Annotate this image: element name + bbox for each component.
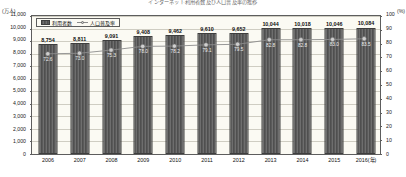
bar-slot: 10,044 xyxy=(255,16,287,154)
x-axis-tick-label: 2014 xyxy=(296,157,308,163)
x-axis-tick-label: 2015 xyxy=(328,157,340,163)
x-axis-tick-label: 2006 xyxy=(42,157,54,163)
x-axis-tick-label: 2007 xyxy=(74,157,86,163)
y-axis-right-tickmark xyxy=(380,71,382,72)
x-axis-tick-label: 2016(年) xyxy=(356,157,377,163)
y-axis-left-tick-label: 0 xyxy=(0,152,28,157)
y-axis-left-tickmark xyxy=(30,16,32,17)
x-axis-tick-label: 2011 xyxy=(201,157,213,163)
y-axis-right-tickmark xyxy=(380,126,382,127)
x-axis-tick-label: 2013 xyxy=(265,157,277,163)
bar-slot: 9,462 xyxy=(159,16,191,154)
bar-value-label: 9,462 xyxy=(168,28,182,34)
y-axis-left-tickmark xyxy=(30,79,32,80)
bar xyxy=(261,28,280,154)
x-axis-tick-label: 2012 xyxy=(233,157,245,163)
bar xyxy=(357,28,376,155)
bar-value-label: 9,652 xyxy=(232,26,246,32)
y-axis-right-tickmark xyxy=(380,44,382,45)
y-axis-right-tick-label: 90 xyxy=(383,26,406,31)
y-axis-right-tickmark xyxy=(380,99,382,100)
bar-value-label: 8,811 xyxy=(73,36,86,42)
bar-slot: 9,408 xyxy=(127,16,159,154)
legend-item-penetration-rate: 人口普及率 xyxy=(77,20,115,26)
line-marker-icon xyxy=(77,20,88,25)
y-axis-right-tick-label: 60 xyxy=(383,68,406,73)
y-axis-left-tick-label: 11,000 xyxy=(0,12,28,17)
legend-label-penetration-rate: 人口普及率 xyxy=(90,20,115,26)
chart-root: インターネット利用者数及び人口普及率の推移 (万人) (%) 8,7548,81… xyxy=(0,0,406,177)
y-axis-left-tickmark xyxy=(30,116,32,117)
y-axis-left-tick-label: 1,000 xyxy=(0,140,28,145)
bar xyxy=(325,28,344,154)
bar-value-label: 10,084 xyxy=(358,20,375,26)
bar xyxy=(102,40,121,154)
y-axis-left-tickmark xyxy=(30,104,32,105)
bar-value-label: 9,091 xyxy=(105,33,119,39)
bar-slot: 10,046 xyxy=(318,16,350,154)
y-axis-right-tick-label: 50 xyxy=(383,82,406,87)
bar-slot: 10,084 xyxy=(350,16,382,154)
x-axis-tick-label: 2010 xyxy=(169,157,181,163)
y-axis-left-tick-label: 8,000 xyxy=(0,51,28,56)
y-axis-right-tick-label: 30 xyxy=(383,110,406,115)
y-axis-right-tick-label: 10 xyxy=(383,138,406,143)
y-axis-right-tick-label: 100 xyxy=(383,12,406,17)
bar-value-label: 8,754 xyxy=(41,37,55,43)
y-axis-left-tickmark xyxy=(30,54,32,55)
chart-title: インターネット利用者数及び人口普及率の推移 xyxy=(0,0,406,6)
y-axis-right-tickmark xyxy=(380,85,382,86)
y-axis-right-tick-label: 20 xyxy=(383,124,406,129)
y-axis-left-tickmark xyxy=(30,41,32,42)
bar-value-label: 9,610 xyxy=(200,26,214,32)
y-axis-right-tickmark xyxy=(380,154,382,155)
y-axis-left-tickmark xyxy=(30,154,32,155)
bar-swatch-icon xyxy=(41,20,50,25)
y-axis-right-tick-label: 0 xyxy=(383,152,406,157)
y-axis-right-tickmark xyxy=(380,30,382,31)
y-axis-left-tick-label: 10,000 xyxy=(0,25,28,30)
bar-value-label: 10,018 xyxy=(294,21,311,27)
x-axis-tick-label: 2008 xyxy=(106,157,118,163)
bar-series-group: 8,7548,8119,0919,4089,4629,6109,65210,04… xyxy=(32,16,380,154)
bar-value-label: 10,044 xyxy=(262,21,279,27)
y-axis-right-tick-label: 70 xyxy=(383,54,406,59)
bar xyxy=(38,44,57,154)
x-axis-tick-label: 2009 xyxy=(137,157,149,163)
chart-legend: 利用者数 人口普及率 xyxy=(36,18,120,27)
bar-value-label: 10,046 xyxy=(326,21,343,27)
y-axis-left-tickmark xyxy=(30,141,32,142)
bar xyxy=(293,28,312,154)
y-axis-right-tickmark xyxy=(380,16,382,17)
y-axis-left-tickmark xyxy=(30,66,32,67)
bar-slot: 8,811 xyxy=(64,16,96,154)
y-axis-left-tickmark xyxy=(30,91,32,92)
bar-slot: 9,091 xyxy=(96,16,128,154)
legend-item-users: 利用者数 xyxy=(41,20,72,26)
y-axis-left-tickmark xyxy=(30,29,32,30)
bar xyxy=(197,33,216,154)
y-axis-left-tick-label: 2,000 xyxy=(0,127,28,132)
y-axis-right-tick-label: 40 xyxy=(383,96,406,101)
y-axis-left-tick-label: 7,000 xyxy=(0,63,28,68)
y-axis-left-tickmark xyxy=(30,129,32,130)
bar xyxy=(229,33,248,154)
y-axis-right-tick-label: 80 xyxy=(383,40,406,45)
y-axis-left-tick-label: 4,000 xyxy=(0,101,28,106)
bar-value-label: 9,408 xyxy=(137,29,151,35)
bar-slot: 8,754 xyxy=(32,16,64,154)
y-axis-right-tickmark xyxy=(380,140,382,141)
y-axis-left-tick-label: 9,000 xyxy=(0,38,28,43)
bar xyxy=(134,36,153,154)
y-axis-right-tickmark xyxy=(380,57,382,58)
bar xyxy=(166,35,185,154)
y-axis-left-tick-label: 5,000 xyxy=(0,89,28,94)
bar-slot: 10,018 xyxy=(287,16,319,154)
bar xyxy=(70,43,89,154)
y-axis-left-tick-label: 6,000 xyxy=(0,76,28,81)
plot-area: 8,7548,8119,0919,4089,4629,6109,65210,04… xyxy=(31,15,381,155)
y-axis-left-tick-label: 3,000 xyxy=(0,114,28,119)
y-axis-right-tickmark xyxy=(380,113,382,114)
legend-label-users: 利用者数 xyxy=(52,20,72,26)
bar-slot: 9,652 xyxy=(223,16,255,154)
